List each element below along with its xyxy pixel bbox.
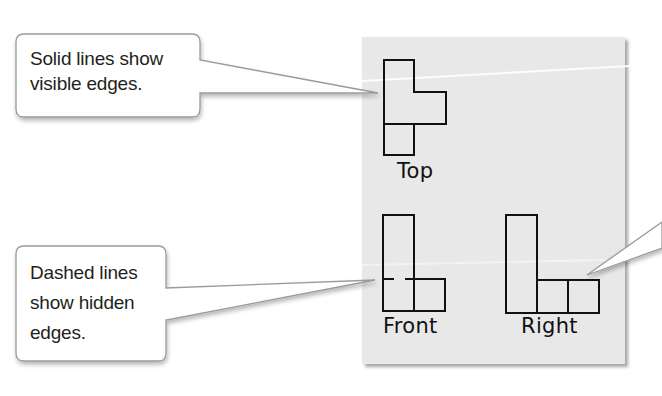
- callout-dashed-line1: Dashed lines: [30, 258, 137, 288]
- callout-solid-line1: Solid lines show: [30, 46, 163, 71]
- callout-dashed-line3: edges.: [30, 318, 137, 348]
- front-view-label: Front: [383, 314, 438, 338]
- top-view-drawing: [384, 60, 446, 155]
- callout-dashed-line2: show hidden: [30, 288, 137, 318]
- callout-solid-line2: visible edges.: [30, 71, 163, 96]
- right-view-drawing: [506, 215, 599, 313]
- callout-solid-text: Solid lines show visible edges.: [30, 46, 163, 96]
- front-view-drawing: [383, 215, 445, 311]
- callout-dashed-text: Dashed lines show hidden edges.: [30, 258, 137, 348]
- right-view-label: Right: [521, 314, 578, 338]
- top-view-label: Top: [397, 159, 433, 183]
- callout-pointer-right: [587, 222, 662, 275]
